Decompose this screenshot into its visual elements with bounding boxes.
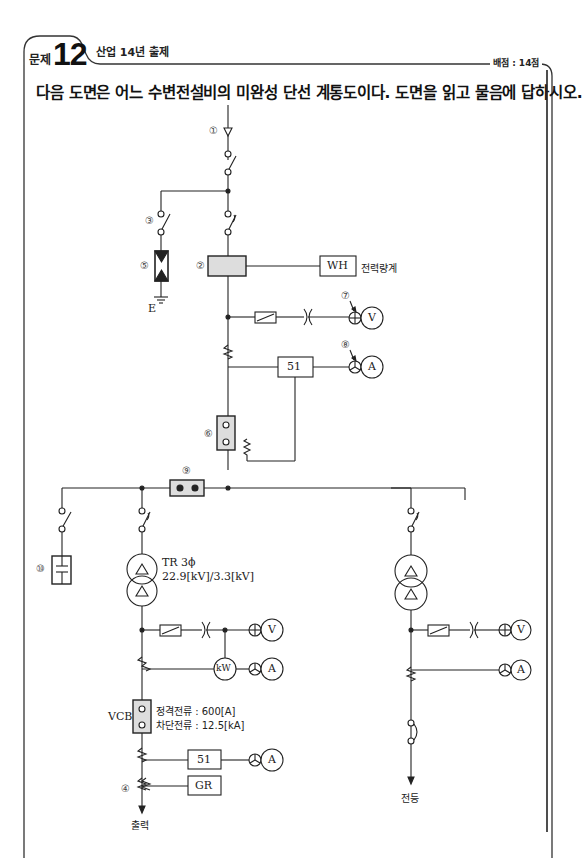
marker-3: ③ [145,215,154,226]
ammeter-right-label: A [517,663,525,676]
wh-desc: 전력량계 [361,260,397,275]
marker-4: ④ [121,783,130,794]
transformer-name: TR 3ϕ [162,556,196,569]
voltmeter-right-label: V [517,623,525,636]
voltmeter-label: V [368,311,376,324]
ammeter-label: A [368,360,376,373]
ammeter-2-label: A [268,662,276,675]
transformer-ratio: 22.9[kV]/3.3[kV] [162,570,254,583]
marker-6: ⑥ [204,428,213,439]
kw-label: kW [216,663,231,673]
marker-2: ② [196,260,205,271]
ground-label: E [148,302,156,315]
gr-label: GR [195,779,212,792]
marker-1: ① [209,125,218,136]
vcb-rated-current: 정격전류 : 600[A] [156,703,235,718]
ammeter-3-label: A [268,753,276,766]
relay-51-bottom-label: 51 [197,753,211,766]
output-label: 출력 [131,817,149,832]
transformer-right-icon [395,555,427,610]
voltmeter-2-label: V [268,623,276,636]
wh-label: WH [327,259,348,272]
relay-51-top-label: 51 [287,360,301,373]
vcb-breaking-current: 차단전류 : 12.5[kA] [156,717,244,732]
vcb-label: VCB [108,710,132,723]
lighting-label: 전등 [401,790,419,805]
marker-8: ⑧ [341,339,350,350]
marker-10: ⑩ [36,563,45,574]
marker-9: ⑨ [182,465,191,476]
marker-7: ⑦ [341,290,350,301]
marker-5: ⑤ [140,260,149,271]
